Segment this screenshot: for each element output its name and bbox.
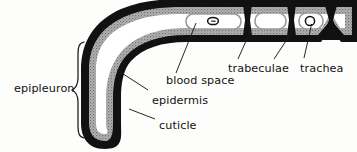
- epipleuron-cross-section-diagram: epipleuron blood space epidermis cuticle…: [0, 0, 357, 152]
- label-epidermis: epidermis: [152, 94, 208, 107]
- label-cuticle: cuticle: [159, 119, 197, 132]
- label-trabeculae: trabeculae: [228, 62, 289, 75]
- label-blood-space: blood space: [166, 74, 234, 87]
- chamber-2: [255, 13, 286, 29]
- trachea-1: [208, 17, 219, 24]
- label-epipleuron: epipleuron: [14, 82, 75, 95]
- label-trachea: trachea: [300, 62, 344, 75]
- leader-cuticle: [129, 109, 155, 119]
- trachea-2: [305, 16, 314, 26]
